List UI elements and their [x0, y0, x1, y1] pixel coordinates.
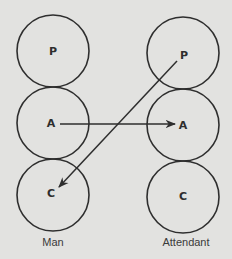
attendant-adult-label: A [179, 119, 188, 132]
attendant-ego-states: P A C Attendant [147, 17, 219, 248]
ego-state-diagram: P A C Man P A C Attendant [0, 0, 232, 259]
man-parent-label: P [49, 45, 57, 58]
man-ego-states: P A C Man [17, 15, 89, 248]
attendant-name-label: Attendant [162, 236, 209, 248]
man-name-label: Man [42, 236, 63, 248]
man-adult-label: A [47, 117, 56, 130]
attendant-child-label: C [179, 190, 187, 203]
attendant-parent-label: P [180, 49, 188, 62]
man-child-label: C [47, 187, 55, 200]
transactions [59, 61, 177, 187]
